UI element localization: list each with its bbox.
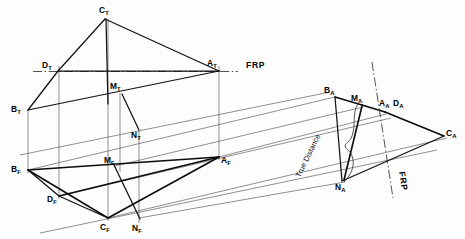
label-B-T: BT [11, 104, 21, 115]
descriptive-geometry-figure: FRP [0, 0, 465, 239]
label-M-T-letter: M [110, 81, 117, 91]
label-M-A: MA [351, 93, 363, 104]
label-M-F-sub: F [111, 160, 115, 166]
label-M-A-letter: M [351, 93, 358, 103]
label-B-F-sub: F [17, 169, 21, 175]
projector-N [139, 182, 345, 218]
label-C-F: CF [100, 222, 110, 233]
label-A-A-sub: A [385, 103, 390, 109]
frp-top-label: FRP [246, 60, 265, 70]
label-D-F-sub: F [53, 199, 57, 205]
label-B-A: BA [324, 85, 335, 96]
label-M-F-letter: M [104, 155, 111, 165]
label-C-T: CT [99, 5, 109, 16]
frp-aux-line [372, 62, 393, 198]
label-N-A-sub: A [341, 187, 346, 193]
label-D-A-sub: A [399, 103, 404, 109]
edge-MF-NF [114, 165, 140, 219]
front-view-labels: BF DF CF NF MF AF [11, 155, 231, 234]
projector-upper-edge [20, 92, 330, 155]
edge-DT-BT [28, 71, 58, 110]
top-to-front-verticals [28, 19, 219, 223]
label-C-A-sub: A [452, 133, 457, 139]
top-view-edges [28, 19, 219, 130]
projector-C [108, 138, 447, 218]
frp-auxiliary-reference: FRP [372, 62, 410, 198]
label-D-T: DT [42, 60, 52, 71]
label-A-A: AA [379, 98, 390, 109]
label-B-A-sub: A [330, 90, 335, 96]
label-N-T-sub: T [137, 135, 141, 141]
label-D-A: DA [393, 98, 404, 109]
edge-DF-CF [59, 196, 108, 218]
label-M-T-sub: T [117, 86, 121, 92]
label-A-F: AF [221, 155, 231, 166]
label-C-A: CA [446, 128, 457, 139]
label-M-F: MF [104, 155, 115, 166]
edge-CT-DT [58, 19, 105, 71]
label-C-F-sub: F [106, 227, 110, 233]
edge-BF-DF [28, 170, 59, 196]
projector-lower-edge [40, 150, 437, 233]
label-D-F: DF [47, 194, 57, 205]
frp-top-reference: FRP [33, 60, 265, 72]
label-A-F-sub: F [227, 160, 231, 166]
label-C-T-sub: T [105, 10, 109, 16]
label-M-T: MT [110, 81, 121, 92]
label-M-A-sub: A [358, 98, 363, 104]
label-N-F-sub: F [138, 228, 142, 234]
label-A-T: AT [207, 58, 217, 69]
projector-M [115, 107, 363, 166]
edge-BA-NA [335, 97, 342, 181]
edge-BT-AT [28, 71, 219, 110]
top-view-labels: CT DT AT BT MT NT [11, 5, 217, 141]
edge-AA-CA [385, 112, 444, 136]
label-N-T: NT [131, 130, 141, 141]
edge-CT-AT [105, 19, 219, 71]
technical-drawing-canvas: FRP [0, 0, 465, 239]
edge-MT-NT [122, 94, 139, 130]
label-B-T-sub: T [17, 109, 21, 115]
label-B-F: BF [11, 164, 21, 175]
label-D-T-sub: T [48, 65, 52, 71]
frp-aux-label: FRP [397, 171, 410, 192]
label-N-F: NF [132, 223, 142, 234]
front-view-edges [28, 157, 219, 219]
label-A-T-sub: T [213, 63, 217, 69]
label-N-A: NA [335, 182, 346, 193]
edge-NA-CA [342, 136, 444, 181]
